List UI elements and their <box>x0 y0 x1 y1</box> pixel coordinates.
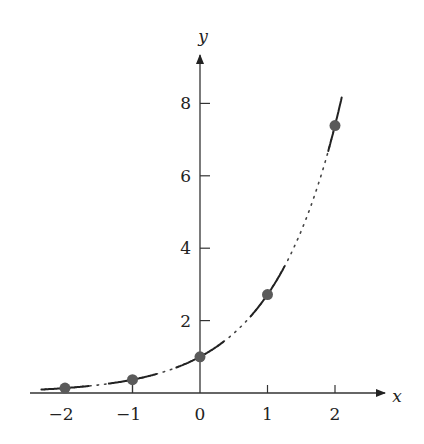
y-tick-label: 2 <box>180 311 191 331</box>
x-tick-label: −1 <box>116 404 141 424</box>
y-tick-label: 8 <box>180 93 191 113</box>
x-tick-label: 2 <box>330 404 341 424</box>
x-tick-label: 0 <box>195 404 206 424</box>
y-tick-label: 6 <box>180 166 191 186</box>
axis-labels: −2−10122468yx <box>48 26 402 424</box>
x-axis-label: x <box>392 386 402 406</box>
axes <box>30 55 385 393</box>
x-tick-label: −2 <box>48 404 73 424</box>
exponential-chart: −2−10122468yx <box>0 0 424 444</box>
data-point <box>330 120 341 131</box>
data-point <box>195 351 206 362</box>
data-point <box>60 383 71 394</box>
tangent-segments <box>41 97 341 393</box>
data-point <box>127 374 138 385</box>
y-axis-label: y <box>197 26 208 46</box>
y-tick-label: 4 <box>180 238 191 258</box>
data-point <box>262 289 273 300</box>
x-tick-label: 1 <box>262 404 273 424</box>
